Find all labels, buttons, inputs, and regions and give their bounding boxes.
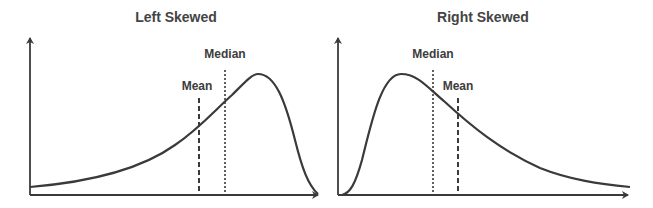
mean-label: Mean <box>443 79 474 93</box>
panel-title: Left Skewed <box>135 9 217 25</box>
right-skewed-panel: Right Skewed Median Mean <box>338 9 630 195</box>
skewness-diagram: Left Skewed Mean Median Right Skewed Med… <box>0 0 653 208</box>
panel-title: Right Skewed <box>437 9 529 25</box>
left-skewed-panel: Left Skewed Mean Median <box>30 9 318 195</box>
distribution-curve <box>342 74 630 195</box>
mean-label: Mean <box>182 79 213 93</box>
median-label: Median <box>204 47 245 61</box>
distribution-curve <box>30 74 318 194</box>
median-label: Median <box>412 47 453 61</box>
